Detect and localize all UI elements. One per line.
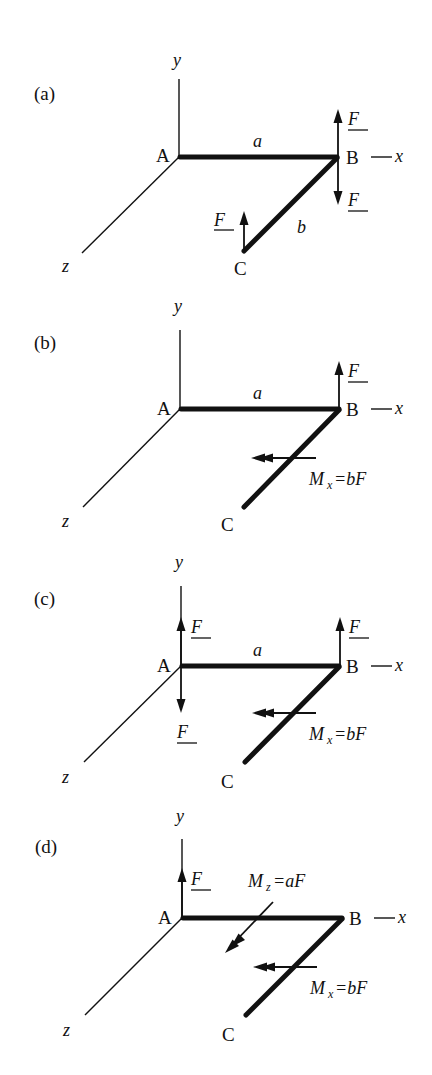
point-a-label: A bbox=[158, 907, 172, 928]
y-axis-label: y bbox=[173, 552, 183, 572]
equivalent-force-systems-figure: (a) y z A B x C a b F F F (b) bbox=[0, 0, 432, 1075]
force-label: F bbox=[348, 617, 361, 637]
point-b-label: B bbox=[346, 656, 359, 677]
point-c-label: C bbox=[234, 258, 247, 279]
force-label: F bbox=[347, 190, 360, 210]
arrowhead-icon bbox=[240, 211, 249, 225]
panel-b: (b) y z A B x C a F M x =bF bbox=[34, 296, 403, 535]
point-a-label: A bbox=[157, 398, 171, 419]
force-label: F bbox=[190, 617, 203, 637]
x-axis-label: x bbox=[394, 655, 403, 675]
arrowhead-icon bbox=[178, 868, 187, 882]
arrowhead-icon bbox=[336, 617, 345, 631]
z-axis-label: z bbox=[61, 256, 69, 276]
x-axis-label: x bbox=[394, 146, 403, 166]
dimension-a-label: a bbox=[253, 131, 262, 151]
moment-label-sub: z bbox=[265, 880, 271, 894]
force-label: F bbox=[190, 869, 203, 889]
z-axis bbox=[85, 918, 182, 1015]
arrowhead-icon bbox=[177, 617, 186, 631]
panel-a: (a) y z A B x C a b F F F bbox=[34, 50, 403, 279]
moment-label-sub: x bbox=[327, 987, 334, 1001]
arrowhead-icon bbox=[334, 109, 343, 123]
moment-label-main: M bbox=[309, 978, 326, 998]
moment-label-sub: x bbox=[326, 733, 333, 747]
arrowhead-icon bbox=[335, 361, 344, 375]
moment-label-rhs: =bF bbox=[334, 469, 367, 489]
panel-c: (c) y z A B x C a F F F M x =bF bbox=[34, 552, 403, 792]
z-axis bbox=[83, 409, 180, 507]
point-a-label: A bbox=[157, 655, 171, 676]
moment-label-rhs: =aF bbox=[273, 871, 306, 891]
moment-label-main: M bbox=[308, 469, 325, 489]
y-axis-label: y bbox=[174, 806, 184, 826]
force-label: F bbox=[176, 722, 189, 742]
point-b-label: B bbox=[346, 399, 359, 420]
moment-label-main: M bbox=[247, 871, 264, 891]
dimension-a-label: a bbox=[253, 640, 262, 660]
z-axis-label: z bbox=[62, 1020, 70, 1040]
point-b-label: B bbox=[349, 908, 362, 929]
moment-label-main: M bbox=[308, 724, 325, 744]
dimension-b-label: b bbox=[297, 217, 306, 237]
point-c-label: C bbox=[221, 514, 234, 535]
z-axis bbox=[82, 157, 179, 253]
panel-label: (a) bbox=[34, 83, 55, 105]
z-axis-label: z bbox=[61, 511, 69, 531]
force-label: F bbox=[213, 210, 226, 230]
arrowhead-icon bbox=[177, 699, 186, 713]
moment-label-rhs: =bF bbox=[335, 978, 368, 998]
member-bc bbox=[244, 158, 337, 251]
point-c-label: C bbox=[222, 1024, 235, 1045]
force-label: F bbox=[347, 361, 360, 381]
panel-label: (c) bbox=[34, 588, 55, 610]
point-b-label: B bbox=[346, 147, 359, 168]
x-axis-label: x bbox=[394, 398, 403, 418]
y-axis-label: y bbox=[171, 50, 181, 70]
z-axis-label: z bbox=[61, 767, 69, 787]
panel-d: (d) y z A B x C F M z =aF M x =bF bbox=[35, 806, 406, 1045]
moment-label-rhs: =bF bbox=[334, 724, 367, 744]
dimension-a-label: a bbox=[253, 383, 262, 403]
moment-label-sub: x bbox=[326, 478, 333, 492]
z-axis bbox=[84, 666, 181, 762]
x-axis-label: x bbox=[397, 907, 406, 927]
point-a-label: A bbox=[156, 145, 170, 166]
arrowhead-icon bbox=[334, 191, 343, 205]
panel-label: (d) bbox=[35, 836, 57, 858]
point-c-label: C bbox=[221, 771, 234, 792]
force-label: F bbox=[347, 109, 360, 129]
panel-label: (b) bbox=[34, 332, 56, 354]
y-axis-label: y bbox=[172, 296, 182, 316]
